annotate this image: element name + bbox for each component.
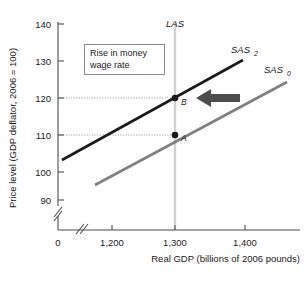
y-tick-label-110: 110: [36, 130, 51, 141]
y-tick-label-120: 120: [35, 93, 51, 104]
callout-box: Rise in money wage rate: [84, 44, 165, 75]
x-tick-marks: [112, 225, 245, 230]
las-label: LAS: [166, 18, 185, 29]
y-tick-marks: [58, 24, 64, 200]
point-a-marker: [172, 132, 179, 139]
shift-arrow-icon: [196, 89, 240, 107]
y-tick-label-90: 90: [40, 195, 51, 206]
sas0-curve: [95, 82, 287, 185]
sas0-label-subscript: 0: [287, 70, 291, 77]
y-axis-title: Price level (GDP deflator, 2006 = 100): [7, 48, 18, 208]
x-axis-title: Real GDP (billions of 2006 pounds): [151, 253, 300, 264]
x-axis-break-icon: [76, 224, 88, 234]
sas0-label: SAS: [264, 64, 284, 75]
y-tick-label-140: 140: [35, 19, 51, 30]
point-b-label: B: [181, 97, 187, 107]
point-b-marker: [172, 95, 179, 102]
x-tick-label-1200: 1,200: [100, 237, 124, 248]
x-tick-label-0: 0: [55, 237, 60, 248]
x-tick-label-1400: 1,400: [233, 237, 257, 248]
callout-line-1: Rise in money: [90, 48, 159, 60]
sas2-label: SAS: [231, 44, 251, 55]
y-tick-label-130: 130: [35, 56, 51, 67]
y-tick-label-100: 100: [35, 167, 51, 178]
x-tick-label-1300: 1,300: [163, 237, 187, 248]
point-a-label: A: [180, 133, 187, 143]
chart-plot-area: 140 130 120 110 100 90 0 1,200 1,300 1,4…: [0, 0, 307, 281]
chart-figure: 140 130 120 110 100 90 0 1,200 1,300 1,4…: [0, 0, 307, 281]
callout-line-2: wage rate: [90, 60, 159, 72]
sas2-label-subscript: 2: [253, 50, 258, 57]
sas2-curve: [62, 60, 243, 160]
